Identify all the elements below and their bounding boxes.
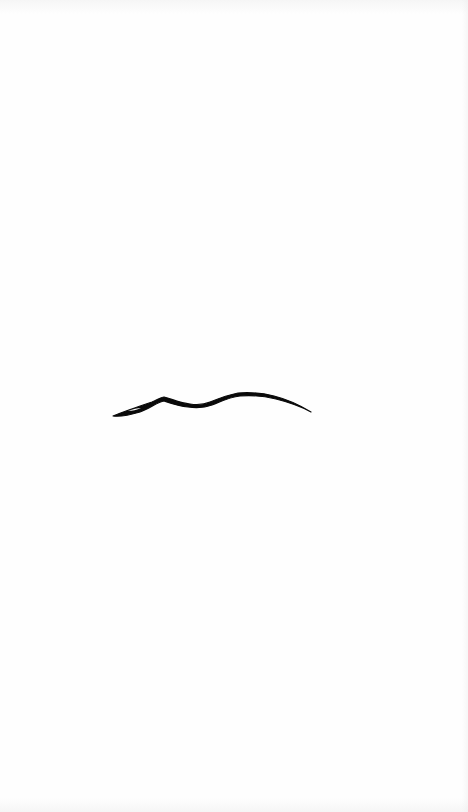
paper-sheet [0,0,468,812]
ink-stroke [113,393,311,417]
drawing-canvas [0,0,468,812]
